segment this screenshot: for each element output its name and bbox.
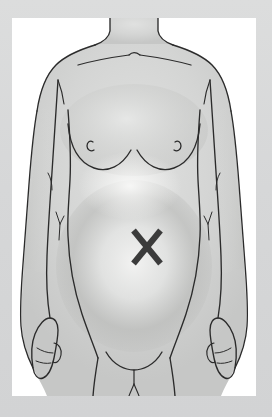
neck-shape [96,18,172,44]
upper-abdomen-highlight [78,152,182,220]
body-silhouette [22,18,247,396]
illustration-canvas: X [12,18,256,396]
illustration-page: X [0,0,272,417]
torso-diagram [12,18,256,396]
